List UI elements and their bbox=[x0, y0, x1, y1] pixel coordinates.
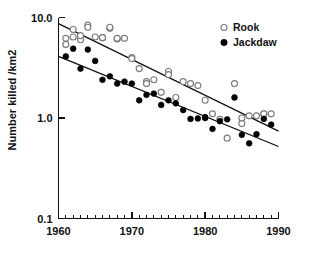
data-point bbox=[136, 97, 142, 103]
data-point bbox=[268, 111, 274, 117]
data-point bbox=[224, 116, 230, 122]
data-point bbox=[268, 122, 274, 128]
data-point bbox=[232, 81, 238, 87]
data-point bbox=[151, 91, 157, 97]
data-point bbox=[180, 107, 186, 113]
chart-figure: Number killed /km210.01.00.1196019701980… bbox=[0, 0, 321, 258]
data-point bbox=[122, 35, 128, 41]
data-point bbox=[195, 83, 201, 89]
data-point bbox=[261, 116, 267, 122]
y-tick-label: 0.1 bbox=[37, 213, 52, 225]
legend-marker bbox=[221, 25, 227, 31]
data-point bbox=[210, 111, 216, 117]
data-point bbox=[136, 66, 142, 72]
data-point bbox=[92, 34, 98, 40]
data-point bbox=[85, 47, 91, 53]
data-point bbox=[246, 140, 252, 146]
data-point bbox=[114, 35, 120, 41]
data-point bbox=[78, 66, 84, 72]
y-tick-label: 1.0 bbox=[37, 112, 52, 124]
data-point bbox=[195, 116, 201, 122]
data-point bbox=[70, 34, 76, 40]
data-point bbox=[129, 56, 135, 62]
data-point bbox=[70, 46, 76, 52]
data-point bbox=[173, 100, 179, 106]
data-point bbox=[144, 81, 150, 87]
data-point bbox=[158, 89, 164, 95]
data-point bbox=[188, 116, 194, 122]
data-point bbox=[129, 81, 135, 87]
data-point bbox=[114, 81, 120, 87]
data-point bbox=[224, 135, 230, 141]
x-tick-label: 1970 bbox=[120, 225, 144, 237]
data-point bbox=[92, 58, 98, 64]
data-point bbox=[63, 54, 69, 60]
data-point bbox=[246, 113, 252, 119]
x-tick-label: 1980 bbox=[193, 225, 217, 237]
data-point bbox=[151, 77, 157, 83]
data-point bbox=[239, 121, 245, 127]
data-point bbox=[202, 115, 208, 121]
data-point bbox=[217, 118, 223, 124]
x-tick-label: 1960 bbox=[46, 225, 70, 237]
data-point bbox=[122, 79, 128, 85]
scatter-plot: Number killed /km210.01.00.1196019701980… bbox=[0, 0, 321, 258]
data-point bbox=[70, 26, 76, 32]
data-point bbox=[85, 24, 91, 30]
data-point bbox=[232, 95, 238, 101]
legend-marker bbox=[221, 39, 227, 45]
data-point bbox=[166, 97, 172, 103]
data-point bbox=[173, 94, 179, 100]
data-point bbox=[188, 81, 194, 87]
data-point bbox=[210, 126, 216, 132]
data-point bbox=[144, 92, 150, 98]
data-point bbox=[100, 35, 106, 41]
data-point bbox=[180, 79, 186, 85]
x-tick-label: 1990 bbox=[266, 225, 290, 237]
data-point bbox=[254, 113, 260, 119]
data-point bbox=[107, 24, 113, 30]
legend-label: Jackdaw bbox=[233, 36, 278, 48]
data-point bbox=[100, 77, 106, 83]
y-axis-label: Number killed /km2 bbox=[6, 50, 18, 151]
data-point bbox=[107, 73, 113, 79]
y-tick-label: 10.0 bbox=[31, 12, 52, 24]
data-point bbox=[239, 132, 245, 138]
data-point bbox=[78, 33, 84, 39]
legend-label: Rook bbox=[233, 21, 259, 33]
data-point bbox=[254, 131, 260, 137]
data-point bbox=[63, 35, 69, 41]
data-point bbox=[166, 72, 172, 78]
data-point bbox=[63, 41, 69, 47]
data-point bbox=[202, 97, 208, 103]
data-point bbox=[158, 102, 164, 108]
